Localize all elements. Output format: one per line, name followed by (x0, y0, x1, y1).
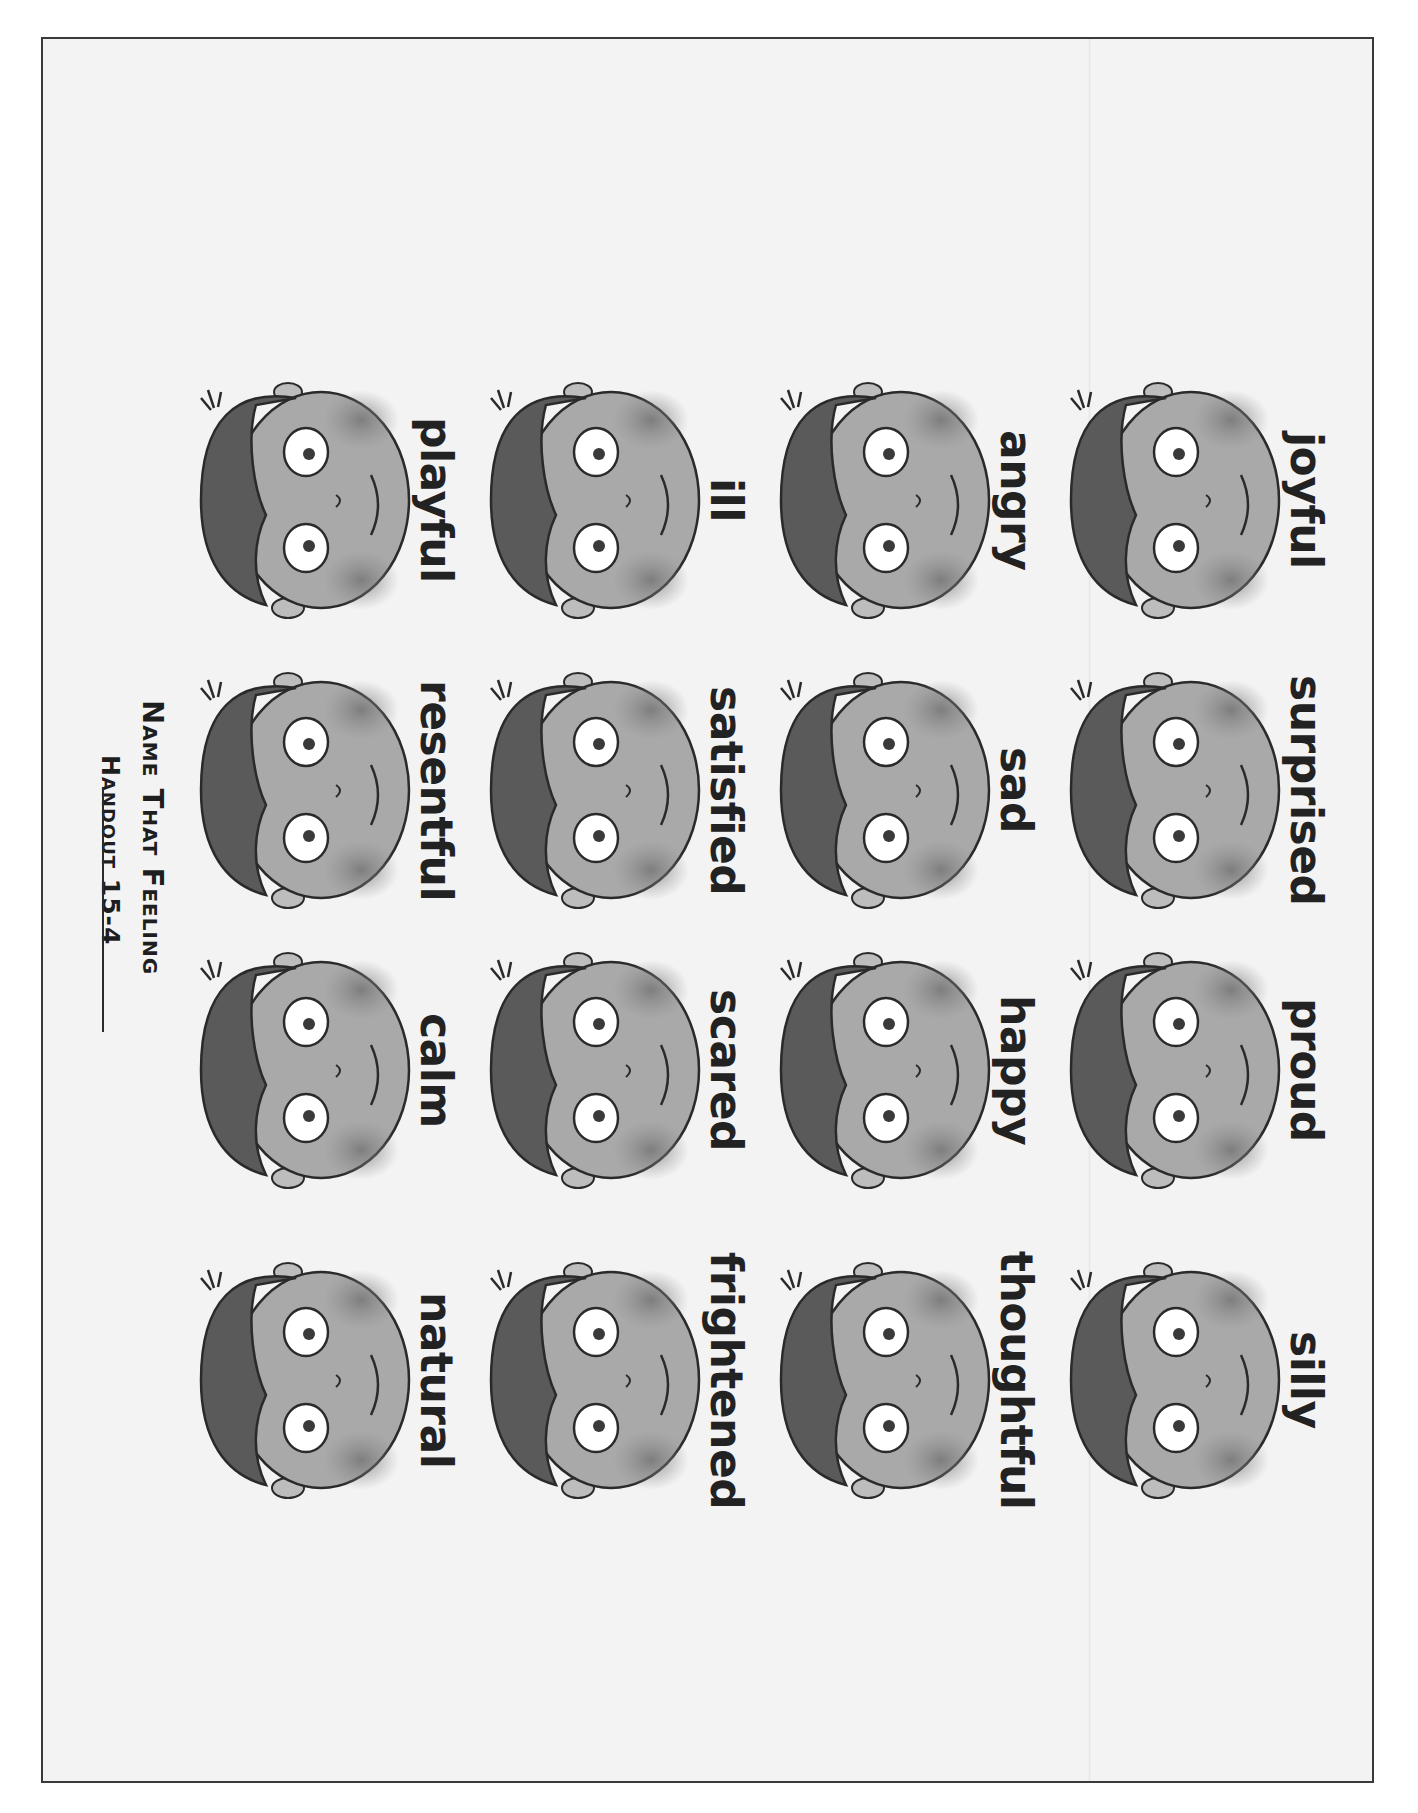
face-illustration-satisfied (486, 670, 701, 910)
page-title: Name That Feeling (136, 700, 170, 975)
face-illustration-natural (196, 1260, 411, 1500)
feeling-label: calm (411, 1013, 462, 1128)
face-illustration-joyful (1066, 380, 1281, 620)
face-illustration-scared (486, 950, 701, 1190)
feeling-label: resentful (411, 680, 462, 901)
feeling-label: joyful (1281, 432, 1332, 569)
feeling-label: ill (701, 478, 752, 522)
face-illustration-angry (776, 380, 991, 620)
face-illustration-silly (1066, 1260, 1281, 1500)
face-illustration-playful (196, 380, 411, 620)
title-underline (102, 787, 104, 1032)
feeling-label: scared (701, 989, 752, 1151)
feeling-label: natural (411, 1292, 462, 1468)
face-illustration-calm (196, 950, 411, 1190)
face-illustration-ill (486, 380, 701, 620)
feeling-label: surprised (1281, 675, 1332, 906)
feeling-label: sad (991, 747, 1042, 833)
feeling-label: playful (411, 417, 462, 583)
handout-number: Handout 15-4 (96, 755, 125, 945)
feeling-label: happy (991, 995, 1042, 1145)
face-illustration-happy (776, 950, 991, 1190)
feeling-label: silly (1281, 1331, 1332, 1429)
face-illustration-sad (776, 670, 991, 910)
feeling-label: satisfied (701, 686, 752, 895)
face-illustration-thoughtful (776, 1260, 991, 1500)
face-illustration-proud (1066, 950, 1281, 1190)
face-illustration-frightened (486, 1260, 701, 1500)
face-illustration-surprised (1066, 670, 1281, 910)
feeling-label: thoughtful (991, 1251, 1042, 1509)
fold-crease (1088, 39, 1091, 1781)
handout-page (41, 37, 1374, 1783)
face-illustration-resentful (196, 670, 411, 910)
feeling-label: frightened (701, 1252, 752, 1509)
feeling-label: angry (991, 430, 1042, 570)
feeling-label: proud (1281, 998, 1332, 1142)
